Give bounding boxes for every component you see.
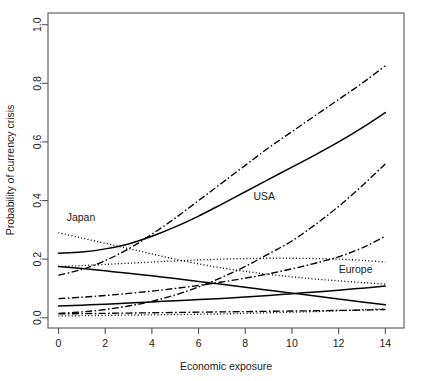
series-label-usa: USA — [253, 190, 275, 202]
y-tick-label: 1.0 — [31, 17, 43, 32]
series-label-europe: Europe — [339, 263, 373, 275]
chart-figure: 02468101214 0.00.20.40.60.81.0 JapanUSAE… — [0, 0, 422, 381]
x-axis-title: Economic exposure — [180, 360, 272, 372]
x-tick-label: 6 — [196, 337, 202, 349]
y-axis-title: Probability of currency crisis — [4, 105, 16, 236]
y-tick-label: 0.8 — [31, 76, 43, 91]
x-tick-label: 2 — [102, 337, 108, 349]
series-label-japan: Japan — [67, 211, 96, 223]
x-tick-label: 10 — [286, 337, 298, 349]
y-tick-label: 0.2 — [31, 252, 43, 267]
x-tick-label: 12 — [333, 337, 345, 349]
x-tick-label: 14 — [379, 337, 391, 349]
x-tick-label: 8 — [242, 337, 248, 349]
y-tick-label: 0.6 — [31, 134, 43, 149]
y-tick-label: 0.0 — [31, 310, 43, 325]
x-tick-label: 0 — [56, 337, 62, 349]
x-tick-label: 4 — [149, 337, 155, 349]
y-tick-label: 0.4 — [31, 193, 43, 208]
currency-crisis-line-chart: 02468101214 0.00.20.40.60.81.0 JapanUSAE… — [0, 0, 422, 381]
